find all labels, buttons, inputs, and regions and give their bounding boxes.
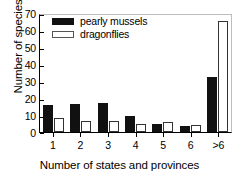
bar xyxy=(218,21,228,132)
bar xyxy=(163,122,173,132)
bar xyxy=(207,77,217,132)
bar xyxy=(125,116,135,132)
legend-item: pearly mussels xyxy=(52,15,172,27)
y-axis-tick-labels: 010203040506070 xyxy=(16,14,36,133)
chart-legend: pearly musselsdragonflies xyxy=(52,15,172,41)
x-axis-tick-mark xyxy=(53,133,54,137)
x-axis-tick-mark xyxy=(163,133,164,137)
legend-label: dragonflies xyxy=(80,29,129,40)
x-axis-tick-mark xyxy=(108,133,109,137)
bar xyxy=(81,121,91,132)
y-axis-tick-label: 10 xyxy=(16,111,36,121)
bar xyxy=(70,104,80,132)
x-axis-tick-label: 2 xyxy=(67,139,95,153)
x-axis-tick-label: 3 xyxy=(94,139,122,153)
legend-swatch xyxy=(52,31,74,38)
y-axis-tick-label: 0 xyxy=(16,128,36,138)
bar xyxy=(54,118,64,132)
y-axis-tick-label: 50 xyxy=(16,43,36,53)
x-axis-tick-mark xyxy=(191,133,192,137)
bar xyxy=(98,103,108,132)
x-axis-tick-mark xyxy=(80,133,81,137)
bar xyxy=(109,121,119,132)
y-axis-tick-label: 70 xyxy=(16,9,36,19)
x-axis-tick-mark xyxy=(218,133,219,137)
y-axis-tick-label: 20 xyxy=(16,94,36,104)
x-axis-tick-label: 5 xyxy=(149,139,177,153)
y-axis-tick-label: 30 xyxy=(16,77,36,87)
x-axis-tick-label: 4 xyxy=(122,139,150,153)
bar xyxy=(136,124,146,132)
legend-label: pearly mussels xyxy=(80,16,147,27)
y-axis-tick-label: 40 xyxy=(16,60,36,70)
legend-swatch xyxy=(52,18,74,25)
bar xyxy=(180,126,190,132)
bar-group xyxy=(204,15,231,132)
x-axis-tick-label: >6 xyxy=(204,139,232,153)
y-axis-tick-label: 60 xyxy=(16,26,36,36)
chart-figure: Number of species (%) 010203040506070 12… xyxy=(0,0,239,181)
bar xyxy=(152,124,162,133)
x-axis-tick-mark xyxy=(136,133,137,137)
x-axis-tick-marks xyxy=(39,133,232,137)
bar xyxy=(43,105,53,132)
x-axis-tick-label: 6 xyxy=(177,139,205,153)
x-axis-title: Number of states and provinces xyxy=(0,158,239,172)
bar xyxy=(191,125,201,132)
legend-item: dragonflies xyxy=(52,28,172,40)
x-axis-tick-label: 1 xyxy=(39,139,67,153)
x-axis-tick-labels: 123456>6 xyxy=(39,139,232,153)
bar-group xyxy=(176,15,203,132)
